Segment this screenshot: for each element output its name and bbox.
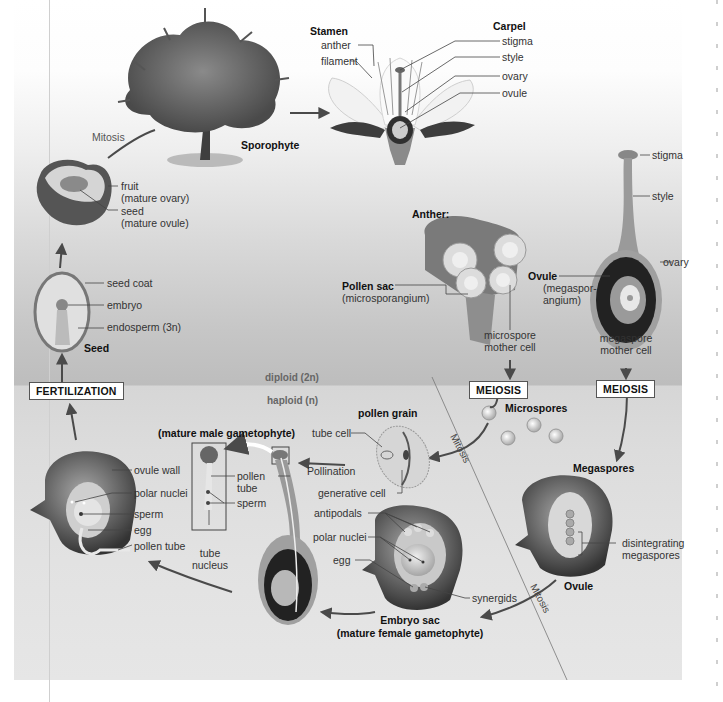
label-endosperm: endosperm (3n) (107, 321, 181, 334)
pollen-grain-illustration (367, 417, 439, 496)
label-diploid: diploid (2n) (265, 372, 319, 383)
label-microsporangium: (microsporangium) (342, 292, 430, 305)
label-embryo-sac: Embryo sac (350, 614, 470, 627)
embryo-sac-illustration (362, 505, 463, 610)
label-male-sperm: sperm (237, 497, 266, 510)
label-style: style (502, 51, 524, 64)
arrow-seed-to-fruit (60, 245, 62, 268)
label-disintegrating-2: megaspores (622, 549, 680, 562)
label-generative-cell: generative cell (318, 487, 386, 500)
label-megasporangium-2: angium) (543, 294, 581, 307)
label-megaspores: Megaspores (573, 462, 634, 475)
label-ovule-heading: Ovule (564, 580, 593, 593)
label-sac-egg: egg (333, 554, 351, 567)
label-stamen: Stamen (310, 25, 348, 38)
fruit-illustration (37, 160, 112, 225)
label-tube-nucleus-2: nucleus (188, 559, 232, 572)
label-pollen-tube-2: tube (237, 482, 257, 495)
label-antipodals: antipodals (314, 507, 362, 520)
label-pollen-sac: Pollen sac (342, 280, 394, 293)
label-anther-heading: Anther: (412, 208, 449, 221)
flower-illustration (329, 58, 475, 165)
meiosis-male-box: MEIOSIS (469, 381, 528, 399)
label-pollen-tube-1: pollen (237, 470, 265, 483)
label-microspore-mother-cell-1: microspore (474, 329, 546, 342)
label-seed-coat: seed coat (107, 277, 153, 290)
label-carpel-ovary: ovary (663, 256, 689, 269)
label-fert-pollen-tube: pollen tube (134, 540, 185, 553)
fertilized-ovule-illustration (30, 451, 136, 555)
label-male-gametophyte: (mature male gametophyte) (158, 427, 295, 440)
label-embryo: embryo (107, 299, 142, 312)
label-carpel: Carpel (493, 20, 526, 33)
label-carpel-style: style (652, 190, 674, 203)
label-disintegrating-1: disintegrating (622, 537, 684, 550)
label-ovule-detail: Ovule (528, 270, 557, 283)
label-stigma: stigma (502, 35, 533, 48)
label-tube-nucleus-1: tube (188, 547, 232, 560)
label-fert-sperm: sperm (134, 508, 163, 521)
label-female-gametophyte: (mature female gametophyte) (330, 627, 490, 640)
label-pollination: Pollination (307, 465, 355, 478)
label-ovule-wall: ovule wall (134, 464, 180, 477)
meiosis-female-box: MEIOSIS (596, 380, 655, 398)
seed-illustration (35, 273, 89, 351)
arrow-meiosis-to-megaspores (617, 395, 627, 460)
label-megaspore-mother-cell-1: megaspore (590, 332, 662, 345)
label-ovary: ovary (502, 70, 528, 83)
label-haploid: haploid (n) (267, 395, 318, 406)
label-sporophyte: Sporophyte (241, 139, 299, 152)
label-tube-cell: tube cell (312, 427, 351, 440)
megaspore-ovule-illustration (515, 475, 613, 576)
label-seed: seed (121, 205, 144, 218)
label-fruit: fruit (121, 180, 139, 193)
arrow-ovule-to-fertilization (70, 405, 76, 440)
label-synergids: synergids (472, 592, 517, 605)
label-sac-polar-nuclei: polar nuclei (313, 531, 367, 544)
label-fert-polar-nuclei: polar nuclei (134, 487, 188, 500)
anther-illustration (424, 216, 526, 345)
label-pollen-grain: pollen grain (358, 407, 418, 420)
label-mature-ovary: (mature ovary) (121, 192, 189, 205)
fertilization-box: FERTILIZATION (29, 382, 124, 400)
label-mitosis-top: Mitosis (92, 131, 125, 144)
label-microspores: Microspores (505, 402, 567, 415)
carpel-illustration (590, 150, 662, 350)
label-ovule: ovule (502, 87, 527, 100)
label-fert-egg: egg (134, 524, 152, 537)
label-filament: filament (321, 55, 358, 68)
label-anther: anther (321, 39, 351, 52)
arrow-zoom-to-male-gametophyte (228, 444, 272, 452)
label-megaspore-mother-cell-2: mother cell (590, 344, 662, 357)
label-microspore-mother-cell-2: mother cell (474, 341, 546, 354)
label-megasporangium-1: (megaspor- (543, 282, 597, 295)
label-seed-heading: Seed (84, 342, 109, 355)
label-mature-ovule: (mature ovule) (121, 217, 189, 230)
label-carpel-stigma: stigma (652, 149, 683, 162)
